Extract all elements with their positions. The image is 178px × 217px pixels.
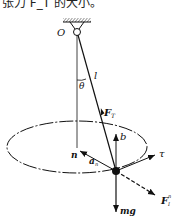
pendulum-mass xyxy=(112,167,120,175)
label-normal: n xyxy=(71,150,78,160)
conical-pendulum-diagram: O l θ F T b n a n τ F I n mg xyxy=(0,0,178,217)
ceiling-support xyxy=(63,18,91,36)
string-line xyxy=(78,35,116,171)
label-inertial-force-sup: n xyxy=(168,193,171,199)
label-pivot: O xyxy=(57,27,65,38)
tangent-arrow xyxy=(116,155,155,171)
inertial-force-arrow xyxy=(116,171,155,195)
label-tension-sub: T xyxy=(111,112,116,119)
label-inertial-force-sub: I xyxy=(167,201,171,207)
label-length: l xyxy=(94,70,97,81)
label-tangent: τ xyxy=(159,148,165,159)
label-angle: θ xyxy=(79,81,85,91)
label-binormal: b xyxy=(120,131,126,142)
label-weight: mg xyxy=(120,206,136,216)
label-normal-accel-sub: n xyxy=(95,161,98,167)
